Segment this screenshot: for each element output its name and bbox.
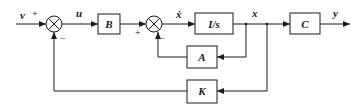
arrow-icon (188, 21, 195, 27)
signal-xdot-label: ẋ (175, 8, 182, 20)
sum2-plus-sign: + (135, 27, 141, 38)
sum1-minus-sign: − (60, 33, 66, 44)
block-C-label: C (301, 18, 309, 30)
block-A-label: A (197, 51, 205, 63)
arrow-icon (283, 21, 290, 27)
arrow-icon (217, 54, 224, 60)
signal-x-label: x (251, 7, 258, 19)
arrow-icon (51, 32, 57, 39)
arrow-icon (343, 21, 350, 27)
block-integrator-label: I/s (207, 18, 220, 30)
signal-v-label: v (20, 9, 25, 21)
arrow-icon (217, 88, 224, 94)
signal-y-label: y (331, 7, 338, 19)
sum1-plus-sign: + (32, 8, 38, 19)
block-K-label: K (197, 85, 206, 97)
block-B-label: B (104, 18, 112, 30)
block-diagram: v + − u B + − ẋ I/s x C y A (0, 0, 363, 111)
arrow-icon (39, 21, 46, 27)
k-feedback-out-wire (54, 32, 187, 91)
summing-junction-2 (146, 16, 162, 32)
arrow-icon (91, 21, 98, 27)
signal-u-label: u (76, 7, 82, 19)
summing-junction-1 (46, 16, 62, 32)
